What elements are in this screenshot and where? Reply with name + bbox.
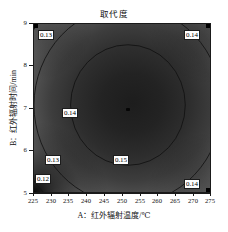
contour-label: 0.14 <box>184 179 200 189</box>
x-tick-mark <box>122 193 123 196</box>
x-tick-mark <box>68 193 69 196</box>
x-tick-mark <box>175 193 176 196</box>
y-tick-label: 9 <box>13 19 27 27</box>
contour-label: 0.13 <box>45 155 61 165</box>
contour-label: 0.14 <box>62 108 78 118</box>
x-tick-mark <box>86 193 87 196</box>
design-point-marker <box>34 24 38 28</box>
y-tick-mark <box>29 150 33 151</box>
design-point-marker <box>206 24 210 28</box>
contour-surface <box>34 24 210 192</box>
x-tick-mark <box>140 193 141 196</box>
x-tick-mark <box>193 193 194 196</box>
y-tick-mark <box>29 193 33 194</box>
contour-label: 0.13 <box>38 30 54 40</box>
y-tick-label: 5 <box>13 189 27 197</box>
x-tick-mark <box>51 193 52 196</box>
x-tick-mark <box>33 193 34 196</box>
y-axis-title: B：红外辐射时间/min <box>9 28 19 188</box>
contour-label: 0.12 <box>35 174 51 184</box>
contour-label: 0.14 <box>184 30 200 40</box>
y-tick-mark <box>29 108 33 109</box>
x-tick-label: 275 <box>199 197 221 205</box>
x-tick-mark <box>157 193 158 196</box>
x-tick-mark <box>104 193 105 196</box>
x-axis-title: A：红外辐射温度/℃ <box>0 211 228 221</box>
chart-title: 取代度 <box>0 9 228 19</box>
x-tick-mark <box>210 193 211 196</box>
y-axis-line <box>33 23 34 193</box>
center-point-marker <box>126 108 130 111</box>
contour-plot-figure: 取代度 <box>0 0 228 232</box>
contour-label: 0.15 <box>113 155 129 165</box>
design-point-marker <box>206 188 210 192</box>
plot-area: 0.13 0.14 0.14 0.13 0.12 0.15 0.14 <box>33 23 211 193</box>
y-tick-mark <box>29 23 33 24</box>
y-tick-mark <box>29 65 33 66</box>
